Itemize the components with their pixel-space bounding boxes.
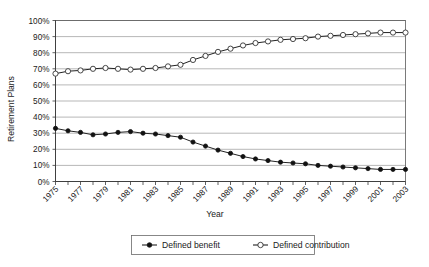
- data-point-marker: [78, 130, 82, 134]
- data-point-marker: [128, 129, 132, 133]
- data-point-marker: [191, 140, 195, 144]
- data-point-marker: [140, 66, 145, 71]
- y-axis-title: Retirement Plans: [6, 76, 16, 142]
- data-point-marker: [378, 30, 383, 35]
- data-point-marker: [328, 164, 332, 168]
- data-point-marker: [128, 67, 133, 72]
- data-point-marker: [215, 49, 220, 54]
- data-point-marker: [315, 34, 320, 39]
- data-point-marker: [303, 162, 307, 166]
- data-point-marker: [341, 165, 345, 169]
- data-point-marker: [390, 30, 395, 35]
- legend-label: Defined contribution: [273, 240, 350, 250]
- y-tick-label: 20%: [33, 145, 49, 154]
- data-point-marker: [53, 71, 58, 76]
- chart-container: 0%10%20%30%40%50%60%70%80%90%100% 197519…: [0, 0, 429, 267]
- data-point-marker: [266, 158, 270, 162]
- data-point-marker: [366, 167, 370, 171]
- data-point-marker: [153, 132, 157, 136]
- y-tick-label: 40%: [33, 113, 49, 122]
- data-point-marker: [166, 134, 170, 138]
- y-tick-label: 100%: [29, 17, 50, 26]
- data-point-marker: [403, 167, 407, 171]
- data-point-marker: [340, 32, 345, 37]
- data-point-marker: [178, 62, 183, 67]
- data-point-marker: [353, 166, 357, 170]
- data-point-marker: [303, 36, 308, 41]
- data-point-marker: [116, 130, 120, 134]
- data-point-marker: [291, 161, 295, 165]
- data-point-marker: [103, 65, 108, 70]
- y-tick-label: 80%: [33, 49, 49, 58]
- y-tick-label: 10%: [33, 161, 49, 170]
- data-point-marker: [53, 126, 57, 130]
- data-point-marker: [278, 160, 282, 164]
- y-tick-label: 90%: [33, 33, 49, 42]
- data-point-marker: [165, 64, 170, 69]
- data-point-marker: [278, 37, 283, 42]
- data-point-marker: [78, 68, 83, 73]
- data-point-marker: [241, 154, 245, 158]
- data-point-marker: [353, 32, 358, 37]
- data-point-marker: [391, 167, 395, 171]
- data-point-marker: [240, 43, 245, 48]
- data-point-marker: [378, 167, 382, 171]
- data-point-marker: [228, 151, 232, 155]
- data-point-marker: [316, 163, 320, 167]
- data-point-marker: [90, 66, 95, 71]
- y-tick-label: 0%: [38, 178, 50, 187]
- data-point-marker: [203, 53, 208, 58]
- data-point-marker: [253, 157, 257, 161]
- legend-label: Defined benefit: [162, 240, 220, 250]
- x-axis-title: Year: [206, 209, 224, 219]
- data-point-marker: [65, 69, 70, 74]
- data-point-marker: [91, 133, 95, 137]
- data-point-marker: [228, 46, 233, 51]
- y-tick-label: 70%: [33, 65, 49, 74]
- data-point-marker: [253, 40, 258, 45]
- data-point-marker: [153, 65, 158, 70]
- data-point-marker: [265, 39, 270, 44]
- legend-marker-filled-circle: [147, 243, 152, 248]
- data-point-marker: [403, 30, 408, 35]
- legend-marker-open-circle: [258, 242, 263, 247]
- data-point-marker: [328, 33, 333, 38]
- data-point-marker: [216, 148, 220, 152]
- data-point-marker: [190, 57, 195, 62]
- data-point-marker: [141, 131, 145, 135]
- data-point-marker: [290, 36, 295, 41]
- retirement-plans-line-chart: 0%10%20%30%40%50%60%70%80%90%100% 197519…: [0, 0, 429, 267]
- data-point-marker: [115, 66, 120, 71]
- data-point-marker: [66, 129, 70, 133]
- data-point-marker: [365, 31, 370, 36]
- data-point-marker: [178, 135, 182, 139]
- data-point-marker: [203, 144, 207, 148]
- y-tick-label: 50%: [33, 97, 49, 106]
- data-point-marker: [103, 132, 107, 136]
- y-tick-label: 60%: [33, 81, 49, 90]
- y-tick-label: 30%: [33, 129, 49, 138]
